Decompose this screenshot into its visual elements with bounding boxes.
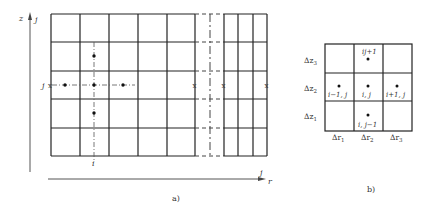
node-label-left: i−1, j xyxy=(328,91,348,99)
z-axis-sublabel: j xyxy=(33,15,38,24)
col-label-dr2: Δr2 xyxy=(361,133,374,143)
stencil-grid xyxy=(325,44,412,131)
row-label-dz1: Δz1 xyxy=(304,112,317,122)
figure-a: z j j r xyxy=(18,12,273,203)
row-marker-label: j xyxy=(40,81,45,90)
stencil-node-center xyxy=(367,85,370,88)
node-bottom xyxy=(92,111,95,114)
caption-b: b) xyxy=(367,185,375,194)
row-marker-x: x xyxy=(48,82,52,90)
r-axis-sublabel: j xyxy=(258,168,263,177)
r-axis-label: r xyxy=(268,177,273,186)
stencil-node-bottom xyxy=(367,114,370,117)
boundary-marks: x x x xyxy=(193,82,269,90)
stencil-nodes xyxy=(338,58,399,117)
node-left xyxy=(63,83,66,86)
node-center xyxy=(92,83,95,86)
node-label-center: i, j xyxy=(362,91,372,99)
node-label-top: ij+1 xyxy=(362,48,377,56)
z-axis-label: z xyxy=(18,14,24,23)
row-label-dz3: Δz3 xyxy=(304,56,317,66)
column-marker-label: i xyxy=(92,159,95,168)
stencil-node-right xyxy=(396,85,399,88)
col-label-dr1: Δr1 xyxy=(332,133,345,143)
node-right xyxy=(121,83,124,86)
r-axis-arrow-icon xyxy=(258,177,266,181)
svg-text:x: x xyxy=(193,82,197,90)
row-label-dz2: Δz2 xyxy=(304,84,317,94)
stencil-node-top xyxy=(367,58,370,61)
node-label-bottom: i, j−1 xyxy=(358,121,377,129)
svg-text:x: x xyxy=(265,82,269,90)
z-axis-arrow-icon xyxy=(28,12,32,20)
svg-text:x: x xyxy=(222,82,226,90)
node-top xyxy=(92,54,95,57)
caption-a: a) xyxy=(172,194,180,203)
figure-b: Δz3 Δz2 Δz1 Δr1 Δr2 Δr3 ij+1 i−1, j i, j… xyxy=(304,44,412,194)
col-label-dr3: Δr3 xyxy=(390,133,403,143)
node-label-right: i+1, j xyxy=(386,91,406,99)
stencil-node-left xyxy=(338,85,341,88)
finite-difference-grid-diagram: z j j r xyxy=(0,0,426,213)
grid-right xyxy=(224,14,267,156)
